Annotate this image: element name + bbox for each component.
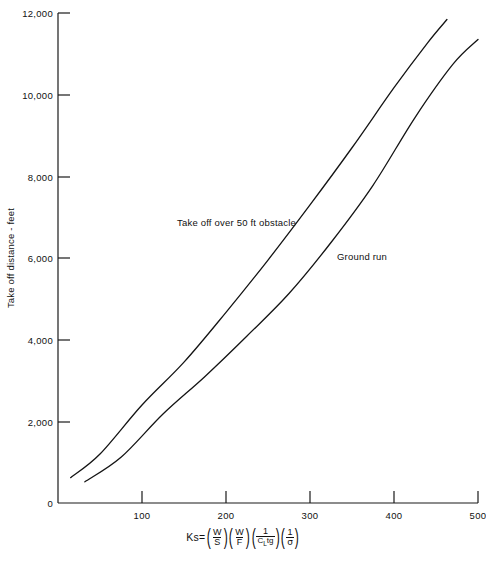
paren-open-4: ( xyxy=(281,527,285,547)
y-tick-label-6000: 6,000 xyxy=(28,253,53,264)
formula-term3-numerator: 1 xyxy=(262,527,269,536)
chart-figure: 12,000 10,000 8,000 6,000 4,000 2,000 0 … xyxy=(0,0,486,567)
chart-svg: 12,000 10,000 8,000 6,000 4,000 2,000 0 … xyxy=(0,0,486,567)
x-tick-label-200: 200 xyxy=(218,510,235,521)
y-tick-label-12000: 12,000 xyxy=(22,8,53,19)
formula-term2-denominator: F xyxy=(236,537,244,547)
curve-takeoff-over-50ft-obstacle xyxy=(71,20,447,478)
paren-open-3: ( xyxy=(251,527,255,547)
y-tick-label-8000: 8,000 xyxy=(28,172,53,183)
curve-ground-run xyxy=(85,40,478,482)
x-tick-label-300: 300 xyxy=(302,510,319,521)
x-axis-formula: Ks= ( W S ) ( W F ) ( 1 CLtg ) ( 1 σ xyxy=(0,527,486,547)
formula-term-w-over-f: W F xyxy=(234,528,245,547)
formula-term1-numerator: W xyxy=(212,528,223,537)
x-tick-label-400: 400 xyxy=(386,510,403,521)
y-tick-label-2000: 2,000 xyxy=(28,417,53,428)
annotation-obstacle-label: Take off over 50 ft obstacle xyxy=(177,217,296,228)
formula-term-one-over-sigma: 1 σ xyxy=(286,528,294,547)
x-tick-label-100: 100 xyxy=(134,510,151,521)
paren-close-1: ) xyxy=(224,527,228,547)
y-tick-label-4000: 4,000 xyxy=(28,335,53,346)
formula-term3-tail: tg xyxy=(267,536,274,545)
formula-term1-denominator: S xyxy=(213,537,221,547)
paren-close-4: ) xyxy=(295,527,299,547)
paren-open-1: ( xyxy=(207,527,211,547)
paren-close-3: ) xyxy=(276,527,280,547)
annotation-ground-run-label: Ground run xyxy=(337,251,387,262)
y-tick-label-0: 0 xyxy=(47,498,53,509)
paren-open-2: ( xyxy=(229,527,233,547)
formula-term4-numerator: 1 xyxy=(287,528,294,537)
formula-term2-numerator: W xyxy=(234,528,245,537)
formula-term4-denominator: σ xyxy=(286,537,294,547)
formula-term3-denominator: CLtg xyxy=(256,536,274,547)
x-tick-label-500: 500 xyxy=(470,510,486,521)
formula-lead: Ks= xyxy=(186,532,205,543)
formula-term-one-over-cltg: 1 CLtg xyxy=(256,527,274,547)
y-axis-label: Take off distance - feet xyxy=(5,208,16,308)
y-tick-label-10000: 10,000 xyxy=(22,90,53,101)
formula-term-w-over-s: W S xyxy=(212,528,223,547)
paren-close-2: ) xyxy=(246,527,250,547)
